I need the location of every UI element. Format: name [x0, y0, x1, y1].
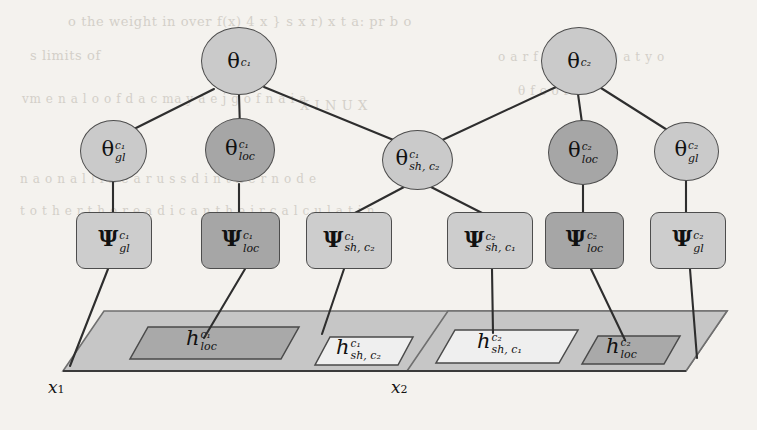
node-h-sh-c2c1-label: hc₂sh, c₁ [477, 331, 522, 355]
node-psi-gl-c2-label: Ψc₂gl [672, 227, 704, 253]
node-psi-gl-c2[interactable]: Ψc₂gl [650, 212, 726, 269]
node-theta-gl-c2[interactable]: θc₂gl [654, 122, 719, 181]
node-h-loc-c2-label: hc₂loc [606, 336, 637, 360]
node-h-sh-c2c1[interactable]: hc₂sh, c₁ [477, 331, 522, 355]
edge-theta-c2-to-theta-sh [438, 87, 556, 142]
node-theta-loc-c2[interactable]: θc₂loc [548, 120, 618, 185]
node-psi-loc-c2[interactable]: Ψc₂loc [545, 212, 624, 269]
node-h-loc-c2[interactable]: hc₂loc [606, 336, 637, 360]
node-h-loc-c1-label: hc₁loc [186, 328, 217, 352]
node-psi-gl-c1-label: Ψc₁gl [98, 227, 130, 253]
node-theta-sh-c1c2[interactable]: θc₁sh, c₂ [382, 130, 453, 190]
node-theta-gl-c2-label: θc₂gl [674, 139, 698, 163]
node-psi-loc-c1[interactable]: Ψc₁loc [201, 212, 280, 269]
node-theta-c1-label: θc₁ [227, 51, 251, 72]
figure-canvas: o the weight in over f(x) 4 x } s x r) x… [0, 0, 757, 430]
edge-theta-sh-to-psi-sh-c1c2 [353, 187, 404, 214]
node-theta-sh-c1c2-label: θc₁sh, c₂ [396, 148, 440, 172]
edge-theta-sh-to-psi-sh-c2c1 [431, 187, 484, 214]
node-psi-loc-c1-label: Ψc₁loc [222, 227, 259, 253]
node-psi-gl-c1[interactable]: Ψc₁gl [76, 212, 152, 269]
node-theta-c2[interactable]: θc₂ [541, 27, 617, 95]
edge-psi-sh-c2c1-to-h-sh-c2c1 [492, 269, 493, 333]
node-psi-sh-c1c2[interactable]: Ψc₁sh, c₂ [306, 212, 392, 269]
node-psi-sh-c1c2-label: Ψc₁sh, c₂ [323, 228, 374, 254]
node-psi-loc-c2-label: Ψc₂loc [566, 227, 603, 253]
node-theta-gl-c1-label: θc₁gl [101, 139, 125, 163]
edge-theta-c2-to-theta-gl-c2 [601, 88, 672, 133]
plate-x1-label: x1 [48, 377, 65, 397]
node-theta-c2-label: θc₂ [567, 51, 591, 72]
node-theta-gl-c1[interactable]: θc₁gl [80, 120, 147, 182]
node-h-sh-c1c2-label: hc₁sh, c₂ [336, 337, 381, 361]
plate-x2-label: x2 [391, 377, 408, 397]
edge-theta-c1-to-theta-gl-c1 [128, 89, 214, 132]
node-theta-loc-c1[interactable]: θc₁loc [205, 118, 275, 182]
node-theta-loc-c1-label: θc₁loc [225, 138, 255, 162]
node-h-loc-c1[interactable]: hc₁loc [186, 328, 217, 352]
node-theta-c1[interactable]: θc₁ [201, 27, 277, 95]
edge-theta-c1-to-theta-sh [264, 87, 396, 141]
node-h-sh-c1c2[interactable]: hc₁sh, c₂ [336, 337, 381, 361]
node-psi-sh-c2c1-label: Ψc₂sh, c₁ [464, 228, 515, 254]
node-psi-sh-c2c1[interactable]: Ψc₂sh, c₁ [447, 212, 533, 269]
node-theta-loc-c2-label: θc₂loc [568, 140, 598, 164]
